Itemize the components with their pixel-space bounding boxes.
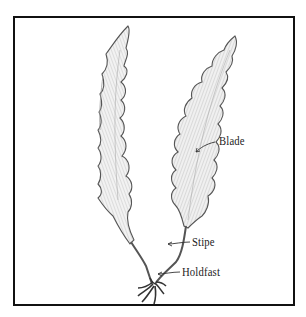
label-blade: Blade [219, 133, 245, 149]
label-stipe: Stipe [192, 234, 215, 250]
stipes [131, 226, 186, 284]
kelp-illustration [0, 0, 306, 317]
holdfast [138, 278, 166, 304]
left-blade [98, 26, 134, 244]
label-holdfast: Holdfast [182, 264, 220, 280]
right-blade [172, 36, 237, 228]
